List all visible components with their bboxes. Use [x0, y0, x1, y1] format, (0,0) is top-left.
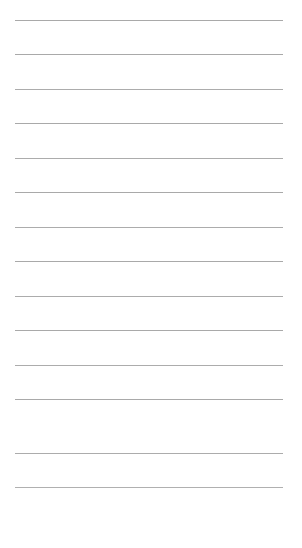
- rule-line: [15, 158, 283, 159]
- rule-line: [15, 399, 283, 400]
- rule-line: [15, 227, 283, 228]
- ruled-paper-page: [0, 0, 302, 548]
- rule-line: [15, 365, 283, 366]
- rule-line: [15, 487, 283, 488]
- rule-line: [15, 261, 283, 262]
- rule-line: [15, 296, 283, 297]
- ruled-sheet-surface[interactable]: [0, 0, 302, 548]
- rule-line: [15, 192, 283, 193]
- rule-line: [15, 453, 283, 454]
- rule-line: [15, 89, 283, 90]
- rule-line: [15, 330, 283, 331]
- rule-line: [15, 54, 283, 55]
- rule-line: [15, 123, 283, 124]
- rule-line: [15, 20, 283, 21]
